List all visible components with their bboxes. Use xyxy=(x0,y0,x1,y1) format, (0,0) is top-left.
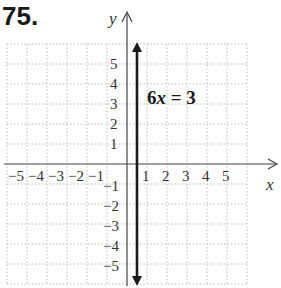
svg-text:−1: −1 xyxy=(88,168,104,184)
svg-text:−2: −2 xyxy=(103,198,119,214)
svg-text:4: 4 xyxy=(110,76,118,92)
svg-text:−3: −3 xyxy=(48,168,64,184)
svg-text:3: 3 xyxy=(182,168,190,184)
svg-text:−5: −5 xyxy=(8,168,24,184)
y-axis xyxy=(122,12,132,286)
coordinate-plane: y x −5 −4 −3 −2 −1 1 2 3 4 5 5 4 3 2 1 −… xyxy=(0,0,281,288)
svg-text:3: 3 xyxy=(110,96,118,112)
svg-text:1: 1 xyxy=(142,168,150,184)
svg-text:1: 1 xyxy=(110,136,118,152)
x-axis xyxy=(4,159,277,169)
svg-text:2: 2 xyxy=(110,116,118,132)
svg-text:−4: −4 xyxy=(28,168,44,184)
svg-text:−1: −1 xyxy=(103,178,119,194)
y-tick-labels: 5 4 3 2 1 −1 −2 −3 −4 −5 xyxy=(103,56,119,274)
svg-text:5: 5 xyxy=(222,168,230,184)
svg-text:2: 2 xyxy=(162,168,170,184)
svg-text:5: 5 xyxy=(110,56,118,72)
svg-text:4: 4 xyxy=(202,168,210,184)
x-axis-label: x xyxy=(265,175,274,194)
svg-text:−5: −5 xyxy=(103,258,119,274)
y-axis-label: y xyxy=(107,9,117,28)
equation-label: 6x = 3 xyxy=(147,87,196,108)
svg-text:−3: −3 xyxy=(103,218,119,234)
svg-text:−4: −4 xyxy=(103,238,119,254)
svg-text:−2: −2 xyxy=(68,168,84,184)
